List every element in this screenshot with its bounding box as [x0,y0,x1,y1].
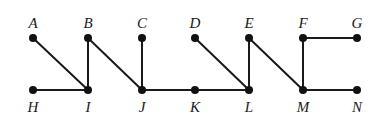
node-label-n: N [351,99,363,115]
node-label-l: L [244,99,253,115]
graph-edges [33,38,357,90]
node-label-b: B [83,15,92,31]
node-b [84,34,92,42]
node-l [245,86,253,94]
edge-e-m [249,38,303,90]
graph-diagram: ABCDEFGHIJKLMN [0,0,385,118]
node-k [191,86,199,94]
node-a [29,34,37,42]
node-label-f: F [297,15,308,31]
node-label-g: G [352,15,363,31]
node-c [138,34,146,42]
edge-a-i [33,38,88,90]
node-label-d: D [189,15,201,31]
node-d [191,34,199,42]
node-label-a: A [27,15,38,31]
node-label-k: K [189,99,201,115]
node-label-c: C [137,15,148,31]
node-i [84,86,92,94]
node-label-i: I [85,99,92,115]
edge-b-j [88,38,142,90]
node-g [353,34,361,42]
graph-labels: ABCDEFGHIJKLMN [27,15,363,115]
node-j [138,86,146,94]
node-n [353,86,361,94]
node-label-m: M [296,99,311,115]
node-label-h: H [27,99,40,115]
node-label-e: E [243,15,253,31]
node-h [29,86,37,94]
edge-d-l [195,38,249,90]
graph-nodes [29,34,361,94]
node-e [245,34,253,42]
node-label-j: J [139,99,147,115]
node-m [299,86,307,94]
node-f [299,34,307,42]
